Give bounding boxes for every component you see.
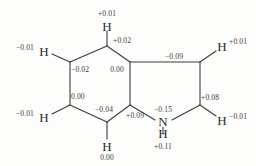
charge-h-upper-right: +0.01	[229, 38, 247, 46]
atom-h-top: H	[102, 20, 111, 33]
atom-h-bottom: H	[102, 140, 111, 153]
bond-c-upper-right-h-upper-right	[200, 51, 216, 62]
bond-c-lower-right-n	[172, 105, 200, 120]
bond-c-fusion-top-c-top	[107, 46, 130, 62]
atom-h-lower-left: H	[39, 111, 48, 124]
atom-h-upper-left: H	[39, 45, 48, 58]
bond-skeleton	[0, 0, 256, 166]
atom-nitrogen-group: N H	[158, 116, 167, 141]
charge-c-upper-right: −0.09	[165, 53, 183, 61]
bond-c-lower-left-h-lower-left	[52, 105, 70, 114]
atom-h-upper-right: H	[217, 40, 226, 53]
charge-n-hydrogen: +0.11	[154, 143, 172, 151]
charge-h-lower-right: −0.01	[229, 113, 247, 121]
charge-h-top: +0.01	[98, 10, 116, 18]
charge-c-bottom: −0.04	[95, 106, 113, 114]
charge-h-lower-left: −0.01	[16, 110, 34, 118]
atom-h-lower-right: H	[217, 114, 226, 127]
charge-h-bottom: 0.00	[100, 154, 114, 162]
bond-c-lower-right-h-lower-right	[200, 105, 216, 116]
bond-c-top-c-upper-left	[70, 46, 107, 62]
charge-c-lower-right: +0.08	[201, 94, 219, 102]
atom-n-hydrogen: H	[158, 128, 167, 140]
charge-c-fusion-bottom: +0.09	[126, 112, 144, 120]
bond-c-upper-left-h-upper-left	[52, 54, 70, 62]
charge-n: −0.15	[154, 106, 172, 114]
charge-c-top: +0.02	[113, 37, 131, 45]
charge-h-upper-left: −0.01	[16, 44, 34, 52]
charge-c-lower-left: 0.00	[71, 93, 85, 101]
charge-c-fusion-top: 0.00	[110, 66, 124, 74]
charge-c-upper-left: −0.02	[71, 66, 89, 74]
molecule-diagram: H H H H H H N H +0.01 +0.02 −0.01 −0.02 …	[0, 0, 256, 166]
